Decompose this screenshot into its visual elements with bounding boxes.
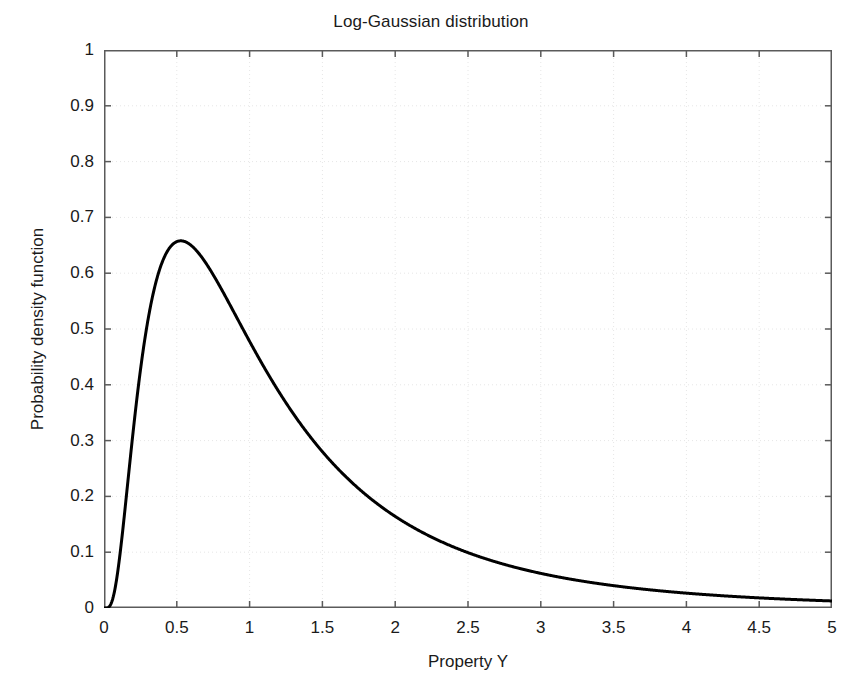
x-axis-label: Property Y: [104, 652, 832, 672]
x-tick-label: 2.5: [456, 618, 480, 638]
x-tick-label: 5: [827, 618, 836, 638]
x-tick-label: 0.5: [165, 618, 189, 638]
x-tick-label: 1.5: [311, 618, 335, 638]
x-tick-label: 3: [536, 618, 545, 638]
gridlines: [104, 50, 832, 608]
x-tick-label: 2: [390, 618, 399, 638]
x-tick-label: 4.5: [747, 618, 771, 638]
y-axis-label: Probability density function: [28, 50, 48, 608]
x-tick-label: 4: [682, 618, 691, 638]
x-tick-label: 1: [245, 618, 254, 638]
chart-page: Log-Gaussian distribution 00.10.20.30.40…: [0, 0, 862, 691]
page-title: Log-Gaussian distribution: [0, 12, 862, 32]
data-series-line: [104, 241, 832, 608]
plot-canvas: [104, 50, 832, 608]
x-tick-label: 0: [99, 618, 108, 638]
x-tick-label: 3.5: [602, 618, 626, 638]
plot-area: [104, 50, 832, 608]
